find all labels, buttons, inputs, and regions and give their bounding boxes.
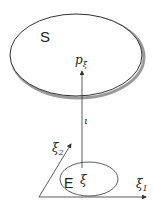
point-p-subscript: ξ xyxy=(83,60,88,69)
axis-x-label: ξ1 xyxy=(136,177,148,193)
set-e-label: E xyxy=(64,175,73,191)
set-s-label: S xyxy=(40,28,50,45)
embedding-diagram: S pξ ι E ξ ξ1 ξ2 xyxy=(0,0,154,209)
small-point-label: ξ xyxy=(80,173,88,187)
map-label: ι xyxy=(84,115,88,126)
axis-y-label: ξ2 xyxy=(52,141,64,157)
